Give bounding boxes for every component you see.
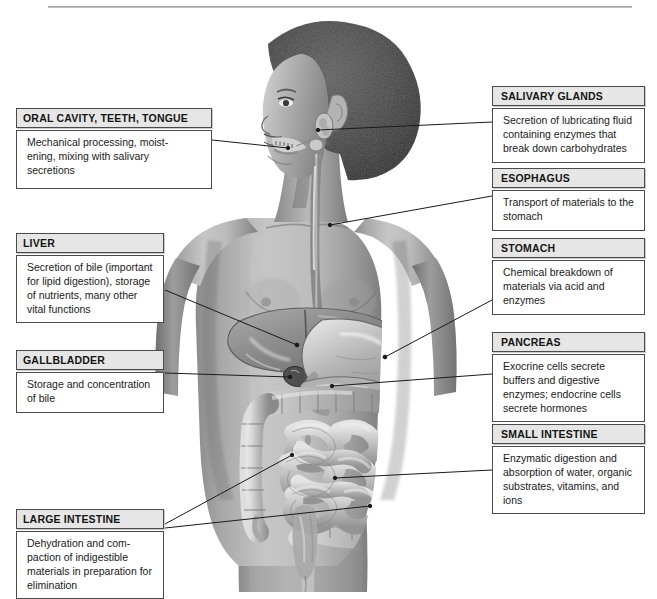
text-line: break down carbohydrates	[503, 142, 627, 154]
text-line: vital functions	[27, 303, 91, 315]
text-line: Storage and concentration	[27, 378, 150, 390]
text-line: secrete hormones	[503, 402, 587, 414]
text-line: Secretion of lubricating fluid	[503, 114, 632, 126]
text-line: Enzymatic digestion and	[503, 452, 617, 464]
text-line: ions	[503, 494, 522, 506]
leader-esophagus	[330, 196, 492, 225]
text-line: buffers and digestive	[503, 374, 600, 386]
text-line: Dehydration and com-	[27, 537, 130, 549]
callout-liver[interactable]: LIVER Secretion of bile (important for l…	[16, 233, 164, 323]
text-line: materials in preparation for	[27, 565, 152, 577]
text-line: Transport of materials to the	[503, 196, 634, 208]
callout-body-large-intestine: Dehydration and com- paction of indigest…	[16, 531, 164, 599]
callout-body-salivary-glands: Secretion of lubricating fluid containin…	[492, 108, 645, 163]
callout-body-oral-cavity: Mechanical processing, moist- ening, mix…	[16, 130, 212, 189]
leader-liver	[165, 290, 297, 345]
leader-pancreas	[332, 374, 492, 386]
text-line: stomach	[503, 210, 543, 222]
callout-body-stomach: Chemical breakdown of materials via acid…	[492, 260, 645, 315]
leader-large-intestine-descending	[165, 506, 370, 528]
callout-esophagus[interactable]: ESOPHAGUS Transport of materials to the …	[492, 168, 645, 231]
callout-small-intestine[interactable]: SMALL INTESTINE Enzymatic digestion and …	[492, 424, 645, 514]
callout-title-pancreas: PANCREAS	[492, 332, 645, 352]
text-line: ening, mixing with salivary	[27, 150, 149, 162]
callout-large-intestine[interactable]: LARGE INTESTINE Dehydration and com- pac…	[16, 509, 164, 599]
callout-gallbladder[interactable]: GALLBLADDER Storage and concentration of…	[16, 350, 164, 413]
leader-small-intestine	[335, 470, 492, 478]
callout-body-liver: Secretion of bile (important for lipid d…	[16, 255, 164, 323]
callout-title-salivary-glands: SALIVARY GLANDS	[492, 86, 645, 106]
text-line: Exocrine cells secrete	[503, 360, 605, 372]
callout-oral-cavity[interactable]: ORAL CAVITY, TEETH, TONGUE Mechanical pr…	[16, 108, 212, 189]
text-line: Mechanical processing, moist-	[27, 136, 168, 148]
callout-body-gallbladder: Storage and concentration of bile	[16, 372, 164, 413]
text-line: for lipid digestion), storage	[27, 275, 150, 287]
text-line: paction of indigestible	[27, 551, 128, 563]
text-line: secretions	[27, 164, 75, 176]
text-line: elimination	[27, 579, 77, 591]
callout-pancreas[interactable]: PANCREAS Exocrine cells secrete buffers …	[492, 332, 645, 422]
leader-oral	[212, 140, 288, 148]
callout-title-esophagus: ESOPHAGUS	[492, 168, 645, 188]
text-line: Secretion of bile (important	[27, 261, 152, 273]
leader-gallbladder	[165, 373, 290, 377]
text-line: containing enzymes that	[503, 128, 616, 140]
callout-body-small-intestine: Enzymatic digestion and absorption of wa…	[492, 446, 645, 514]
text-line: materials via acid and	[503, 280, 605, 292]
text-line: enzymes	[503, 294, 545, 306]
callout-title-small-intestine: SMALL INTESTINE	[492, 424, 645, 444]
text-line: substrates, vitamins, and	[503, 480, 619, 492]
callout-title-large-intestine: LARGE INTESTINE	[16, 509, 164, 529]
text-line: Chemical breakdown of	[503, 266, 613, 278]
leader-large-intestine-ascending	[165, 455, 292, 524]
leader-salivary-glands	[318, 122, 492, 130]
text-line: of bile	[27, 392, 55, 404]
callout-body-pancreas: Exocrine cells secrete buffers and diges…	[492, 354, 645, 422]
callout-body-esophagus: Transport of materials to the stomach	[492, 190, 645, 231]
callout-stomach[interactable]: STOMACH Chemical breakdown of materials …	[492, 238, 645, 315]
callout-salivary-glands[interactable]: SALIVARY GLANDS Secretion of lubricating…	[492, 86, 645, 163]
callout-title-liver: LIVER	[16, 233, 164, 253]
callout-title-oral-cavity: ORAL CAVITY, TEETH, TONGUE	[16, 108, 212, 128]
callout-title-gallbladder: GALLBLADDER	[16, 350, 164, 370]
callout-title-stomach: STOMACH	[492, 238, 645, 258]
text-line: enzymes; endocrine cells	[503, 388, 621, 400]
text-line: absorption of water, organic	[503, 466, 632, 478]
text-line: of nutrients, many other	[27, 289, 137, 301]
leader-stomach	[385, 300, 492, 357]
